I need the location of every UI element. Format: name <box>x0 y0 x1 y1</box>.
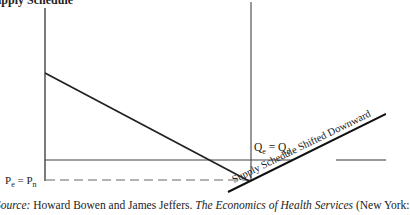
equilibrium-price-label: Pe = Pn <box>5 174 37 189</box>
source-citation: Source: Howard Bowen and James Jeffers. … <box>0 199 410 211</box>
pn-sub: n <box>33 180 37 189</box>
source-book-title: The Economics of Health Services <box>195 199 353 211</box>
source-label: Source: <box>0 199 30 211</box>
supply-shifted-line <box>228 114 386 192</box>
source-authors: Howard Bowen and James Jeffers. <box>30 199 195 211</box>
chart-title: Supply Schedule <box>0 0 73 8</box>
source-publisher: (New York: <box>353 199 410 211</box>
pe-eq: = P <box>15 174 33 186</box>
demand-line <box>45 73 249 181</box>
